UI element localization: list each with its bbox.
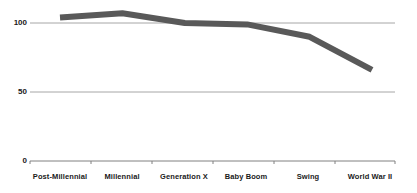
data-series-line xyxy=(60,13,372,70)
data-series-group xyxy=(60,13,372,70)
gridlines xyxy=(30,23,395,92)
x-tick-label-millennial: Millennial xyxy=(104,173,139,181)
x-tick-label-generation-x: Generation X xyxy=(160,173,208,181)
y-tick-label-100: 100 xyxy=(9,19,27,27)
chart-plot-area xyxy=(0,0,417,193)
x-tick-label-swing: Swing xyxy=(297,173,320,181)
x-tick-label-baby-boom: Baby Boom xyxy=(225,173,268,181)
y-tick-label-0: 0 xyxy=(9,157,27,165)
line-chart: 100 50 0 Post-Millennial Millennial Gene… xyxy=(0,0,417,193)
x-tick-label-post-millennial: Post-Millennial xyxy=(33,173,87,181)
y-tick-label-50: 50 xyxy=(9,88,27,96)
x-tick-label-world-war-ii: World War II xyxy=(348,173,393,181)
